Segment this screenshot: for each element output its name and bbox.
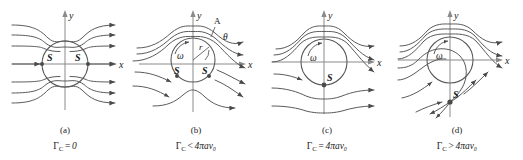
panel-d-omega-label: ω (436, 51, 443, 61)
panel-b-formula: ΓC<4πav₀ (131, 140, 261, 155)
y-axis-arrowhead (190, 10, 195, 17)
panel-d-letter: (d) (392, 124, 522, 136)
panel-b-gamma-subscript: C (181, 145, 186, 153)
panel-b-stagnation-label-left: S (174, 65, 180, 76)
figure-flow-past-rotating-cylinder: y x S S (a) ΓC=0 (0, 0, 523, 160)
panel-d-formula: ΓC>4πav₀ (392, 140, 522, 155)
panel-a-plot: y x S S (0, 2, 130, 124)
panel-b-plot: y x A θ r ω S S (131, 2, 261, 124)
panel-d-rhs: 4πav₀ (455, 141, 477, 151)
stagnation-dot-right (207, 74, 211, 78)
panel-c-letter: (c) (262, 124, 392, 136)
axes-a (12, 10, 117, 110)
panel-a-rhs: 0 (72, 141, 77, 151)
panel-d-x-axis-label: x (504, 55, 510, 66)
panel-b-omega-label: ω (177, 51, 184, 61)
panel-b-theta-label: θ (223, 32, 228, 42)
panel-a: y x S S (a) ΓC=0 (0, 0, 130, 160)
panel-a-letter: (a) (0, 124, 130, 136)
panel-a-formula: ΓC=0 (0, 140, 130, 155)
panel-c-omega-label: ω (310, 53, 317, 63)
panel-c-y-axis-label: y (327, 10, 333, 21)
theta-arc (205, 50, 209, 60)
stagnation-dot-left (40, 62, 44, 66)
panel-d-y-axis-label: y (453, 10, 459, 21)
panel-b-stagnation-label-right: S (202, 65, 208, 76)
panel-a-y-axis-label: y (68, 10, 74, 21)
y-axis-arrowhead (447, 10, 452, 17)
panel-a-operator: = (65, 141, 70, 151)
panel-a-stagnation-label-left: S (47, 52, 53, 63)
y-axis-arrowhead (62, 10, 67, 17)
panel-c-operator: = (319, 141, 324, 151)
panel-c-gamma-subscript: C (312, 145, 317, 153)
stagnation-dot-bottom (322, 83, 327, 88)
panel-b-radius-label: r (199, 42, 203, 52)
panel-c-stagnation-label: S (327, 72, 333, 83)
panel-c-plot: y x ω S (262, 2, 392, 124)
panel-d-stagnation-label: S (453, 89, 459, 100)
panel-b-x-axis-label: x (247, 59, 253, 70)
panel-a-gamma-subscript: C (59, 145, 64, 153)
panel-a-stagnation-label-right: S (75, 52, 81, 63)
stagnation-markers-c (322, 83, 327, 88)
panel-d-plot: y x ω S (392, 2, 522, 124)
panel-b-operator: < (188, 141, 193, 151)
panel-b-letter: (b) (131, 124, 261, 136)
panel-d: y x ω S (d) ΓC>4πav₀ (392, 0, 522, 160)
panel-c-rhs: 4πav₀ (325, 141, 347, 151)
panel-d-operator: > (449, 141, 454, 151)
panel-b-y-axis-label: y (196, 10, 202, 21)
panel-c: y x ω S (c) ΓC=4πav₀ (262, 0, 392, 160)
x-axis-arrowhead (496, 57, 503, 62)
panel-c-x-axis-label: x (376, 57, 382, 68)
stagnation-dot-right (86, 62, 90, 66)
panel-b-point-a-label: A (214, 16, 221, 26)
panel-c-formula: ΓC=4πav₀ (262, 140, 392, 155)
panel-b-rhs: 4πav₀ (194, 141, 216, 151)
axes-b (139, 10, 246, 112)
stagnation-dot-below (447, 99, 452, 104)
panel-d-gamma-subscript: C (442, 145, 447, 153)
panel-a-x-axis-label: x (118, 59, 124, 70)
y-axis-arrowhead (321, 10, 326, 17)
stagnation-markers-d (447, 99, 452, 104)
panel-b: y x A θ r ω S S (b) ΓC<4πav₀ (131, 0, 261, 160)
